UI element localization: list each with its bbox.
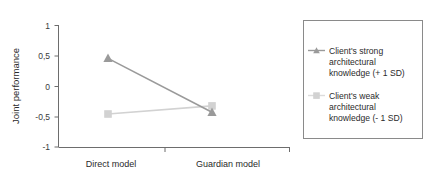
y-axis-title: Joint performance [10, 48, 21, 124]
chart-figure-root: 1 0,5 0 -0,5 -1 Joint performance Direct… [0, 0, 432, 183]
legend-entry-weak-knowledge[interactable]: Client's weak architectural knowledge (-… [308, 91, 403, 123]
y-tick-label-neg05: -0,5 [35, 112, 50, 122]
plot-svg: 1 0,5 0 -0,5 -1 Joint performance Direct… [0, 0, 432, 183]
legend-label-weak-line3: knowledge (- 1 SD) [329, 113, 403, 123]
legend-label-weak-line2: architectural [329, 102, 376, 112]
series-line-weak-knowledge [108, 106, 212, 114]
legend-label-strong-line3: knowledge (+ 1 SD) [329, 68, 405, 78]
data-point-weak-direct-model [104, 110, 112, 118]
y-tick-label-05: 0,5 [38, 51, 50, 61]
y-tick-label-1: 1 [45, 21, 50, 31]
legend-entry-strong-knowledge[interactable]: Client's strong architectural knowledge … [308, 46, 405, 78]
series-line-strong-knowledge [108, 58, 212, 112]
legend-label-strong-line1: Client's strong [329, 46, 383, 56]
data-point-strong-direct-model [103, 54, 112, 62]
x-category-label-guardian-model: Guardian model [196, 159, 260, 169]
square-icon [313, 92, 320, 99]
y-tick-label-0: 0 [45, 82, 50, 92]
x-category-label-direct-model: Direct model [86, 159, 137, 169]
y-tick-label-neg1: -1 [42, 142, 50, 152]
legend-label-strong-line2: architectural [329, 57, 376, 67]
legend-label-weak-line1: Client's weak [329, 91, 380, 101]
interaction-plot-figure: 1 0,5 0 -0,5 -1 Joint performance Direct… [0, 0, 432, 183]
